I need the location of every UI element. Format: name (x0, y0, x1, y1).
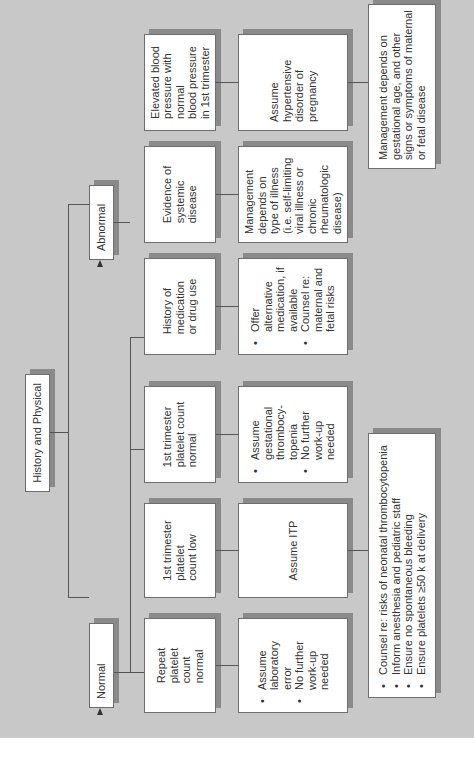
outcome-medication: Offer alternative medication, if availab… (238, 258, 348, 355)
finding-1st-trimester-normal: 1st trimester platelet count normal (144, 386, 216, 483)
finding-medication-history: History of medication or drug use (144, 258, 216, 355)
connector (114, 222, 130, 223)
itp-item: Inform anesthesia and pediatric staff (390, 445, 403, 675)
outcome-label: Assume hypertensive disorder of pregnanc… (268, 60, 318, 122)
finding-repeat-platelet-normal: Repeat platelet count normal (144, 618, 216, 713)
outcome-label: Assume ITP (287, 521, 300, 581)
connector (68, 597, 89, 598)
history-and-physical-box: History and Physical (25, 374, 50, 492)
itp-item: Counsel re: risks of neonatal thrombocyt… (377, 445, 390, 675)
finding-label: Evidence of systemic disease (161, 166, 199, 223)
outcome-item: No further work-up needed (293, 641, 331, 690)
outcome-list: Offer alternative medication, if availab… (249, 259, 337, 346)
connector (68, 204, 89, 205)
finding-label: History of medication or drug use (161, 279, 199, 335)
normal-branch-box: Normal (89, 623, 114, 708)
finding-systemic-disease: Evidence of systemic disease (144, 146, 216, 243)
connector (216, 434, 238, 435)
root-label: History and Physical (31, 383, 44, 483)
connector (50, 432, 68, 433)
itp-management-list: Counsel re: risks of neonatal thrombocyt… (377, 445, 427, 689)
connector (348, 550, 368, 551)
itp-item: Ensure platelets ≥50 k at delivery (415, 445, 428, 675)
finding-label: 1st trimester platelet count normal (161, 402, 199, 467)
connector (216, 82, 238, 83)
outcome-label: Management depends on type of illness (i… (243, 158, 343, 234)
arrow-icon (97, 708, 103, 715)
outcome-list: Assume gestational thrombocy- topenia No… (249, 405, 337, 474)
connector (130, 338, 131, 673)
outcome-item: Offer alternative medication, if availab… (249, 259, 299, 332)
finding-elevated-bp: Elevated blood pressure with normal bloo… (144, 34, 216, 131)
finding-label: Elevated blood pressure with normal bloo… (149, 46, 212, 119)
outcome-item: Assume laboratory error (256, 641, 294, 690)
itp-item: Ensure no spontaneous bleeding (402, 445, 415, 675)
connector (216, 194, 238, 195)
abnormal-label: Abnormal (95, 204, 108, 251)
flowchart-rotated: History and Physical Normal Abnormal Rep… (0, 0, 474, 738)
outcome-systemic-management: Management depends on type of illness (i… (238, 146, 348, 243)
outcome-item: No further work-up needed (299, 405, 337, 460)
outcome-item: Counsel re: maternal and fetal risks (299, 259, 337, 332)
finding-label: 1st trimester platelet count low (161, 520, 199, 581)
connector (130, 449, 144, 450)
connector (348, 82, 368, 83)
hypertension-management-text: Management depends on gestational age, a… (377, 10, 427, 160)
abnormal-branch-box: Abnormal (89, 185, 114, 260)
hypertension-management-box: Management depends on gestational age, a… (368, 4, 436, 169)
arrow-icon (97, 260, 103, 267)
connector (68, 205, 69, 598)
itp-management-box: Counsel re: risks of neonatal thrombocyt… (368, 433, 436, 698)
connector (130, 672, 144, 673)
connector (216, 550, 238, 551)
outcome-list: Assume laboratory error No further work-… (256, 641, 331, 704)
outcome-assume-itp: Assume ITP (238, 503, 348, 598)
finding-label: Repeat platelet count normal (155, 648, 205, 683)
outcome-gestational-thrombocytopenia: Assume gestational thrombocy- topenia No… (238, 386, 348, 483)
connector (216, 306, 238, 307)
connector (130, 337, 144, 338)
outcome-item: Assume gestational thrombocy- topenia (249, 405, 299, 460)
flowchart-canvas: History and Physical Normal Abnormal Rep… (0, 0, 474, 738)
outcome-hypertensive-disorder: Assume hypertensive disorder of pregnanc… (238, 34, 348, 131)
outcome-laboratory-error: Assume laboratory error No further work-… (238, 618, 348, 713)
connector (216, 665, 238, 666)
finding-1st-trimester-low: 1st trimester platelet count low (144, 503, 216, 598)
normal-label: Normal (95, 664, 108, 699)
